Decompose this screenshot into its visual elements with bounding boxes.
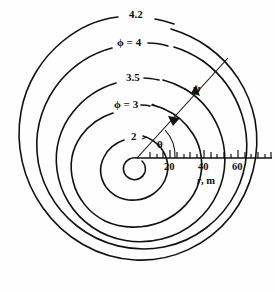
contour-curve-phi3-leftstub xyxy=(141,105,150,106)
r-axis-tick-20: 20 xyxy=(164,162,175,173)
contour-label-3-5: 3.5 xyxy=(126,72,140,83)
contour-curve-4-2-tail xyxy=(171,29,208,47)
contour-curve-3-5-stub xyxy=(163,80,185,89)
contour-curve-core xyxy=(123,158,145,180)
contour-label-2: 2 xyxy=(131,131,137,142)
r-axis-minor-ticks xyxy=(150,150,271,158)
contour-curve-phi4 xyxy=(37,48,247,249)
contour-label-4-2: 4.2 xyxy=(129,9,143,20)
theta-angle-label: θ xyxy=(157,139,163,150)
contour-curve-phi4-leftstub xyxy=(148,43,168,46)
contour-curve-phi3 xyxy=(71,109,201,227)
contour-curve-phi4-stub xyxy=(174,47,203,61)
r-axis-label-unit: , m xyxy=(201,175,215,186)
radial-ray-line xyxy=(137,58,228,158)
spiral-figure: 4.2 ϕ = 4 3.5 ϕ = 3 2 ψ θ 20 40 60 r, m xyxy=(0,0,275,292)
contour-curve-4-2 xyxy=(19,17,257,260)
contour-curve-3-5-leftstub xyxy=(144,78,159,80)
r-axis-tick-60: 60 xyxy=(232,162,243,173)
contour-label-phi-4: ϕ = 4 xyxy=(117,37,141,48)
r-axis-tick-40: 40 xyxy=(198,162,209,173)
psi-angle-label: ψ xyxy=(193,83,201,94)
contour-label-phi-3: ϕ = 3 xyxy=(114,99,138,110)
contour-curve-4-2-leftstub xyxy=(155,19,174,24)
r-axis-label: r, m xyxy=(197,176,215,187)
